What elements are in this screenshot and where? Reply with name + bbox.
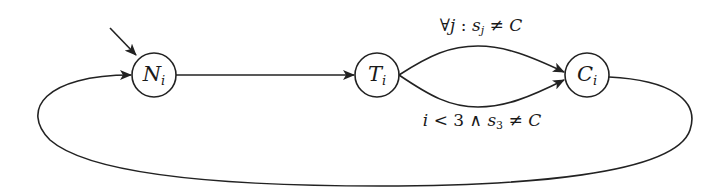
- forall-symbol: ∀: [440, 15, 450, 35]
- initial-arrow: [110, 28, 136, 55]
- state-c-label: Ci: [577, 64, 597, 87]
- edge-t-to-c-lower: [399, 75, 564, 107]
- state-t-main: T: [368, 62, 382, 86]
- upper-s: s: [472, 15, 481, 35]
- state-n-main: N: [143, 62, 161, 86]
- state-diagram: [0, 0, 727, 195]
- state-n-sub: i: [161, 73, 165, 88]
- lower-s: s: [487, 110, 496, 130]
- edge-label-upper: ∀j : sj ≠ C: [440, 17, 522, 36]
- lower-lt: < 3 ∧: [428, 110, 487, 130]
- state-n-label: Ni: [143, 64, 166, 87]
- lower-target: C: [528, 110, 541, 130]
- state-c-sub: i: [593, 73, 597, 88]
- edge-t-to-c-upper: [399, 46, 564, 75]
- state-t-sub: i: [382, 73, 386, 88]
- upper-colon: :: [455, 15, 472, 35]
- edge-label-lower: i < 3 ∧ s3 ≠ C: [423, 112, 541, 131]
- lower-neq: ≠: [503, 110, 528, 130]
- state-t-label: Ti: [368, 64, 386, 87]
- upper-neq: ≠: [484, 15, 509, 35]
- upper-target: C: [509, 15, 522, 35]
- state-c-main: C: [577, 62, 593, 86]
